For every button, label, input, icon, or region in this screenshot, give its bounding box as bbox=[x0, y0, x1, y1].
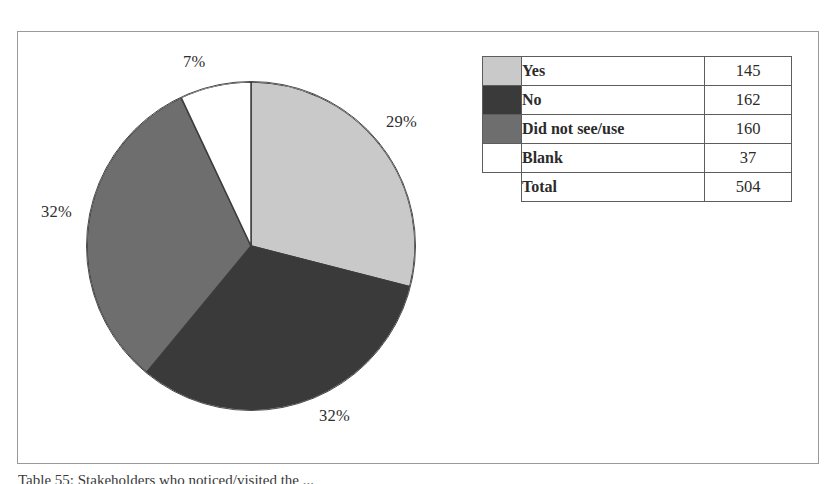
pie-circle bbox=[86, 81, 416, 411]
legend-label-cell: Yes bbox=[522, 57, 705, 86]
legend-label-cell: No bbox=[522, 86, 705, 115]
legend-data-table-wrapper: Yes145No162Did not see/use160Blank37Tota… bbox=[482, 56, 792, 202]
figure-caption: Table 55: Stakeholders who noticed/visit… bbox=[18, 472, 818, 484]
legend-swatch-cell bbox=[483, 86, 522, 115]
legend-swatch-cell bbox=[483, 115, 522, 144]
pie-label-blank: 7% bbox=[183, 52, 206, 72]
table-row: Total504 bbox=[483, 173, 792, 202]
pie-label-did-not-see-use: 32% bbox=[41, 202, 72, 222]
legend-label-cell: Blank bbox=[522, 144, 705, 173]
legend-data-table: Yes145No162Did not see/use160Blank37Tota… bbox=[482, 56, 792, 202]
legend-value-cell: 145 bbox=[705, 57, 792, 86]
legend-value-cell: 160 bbox=[705, 115, 792, 144]
legend-label-cell: Did not see/use bbox=[522, 115, 705, 144]
legend-swatch-did-not-see-use bbox=[483, 115, 521, 143]
legend-swatch-cell bbox=[483, 173, 522, 202]
pie-label-no: 32% bbox=[319, 406, 350, 426]
legend-swatch-yes bbox=[483, 57, 521, 85]
legend-swatch-blank bbox=[483, 144, 521, 172]
table-row: Blank37 bbox=[483, 144, 792, 173]
legend-label-cell: Total bbox=[522, 173, 705, 202]
pie-slices-svg bbox=[87, 82, 415, 410]
table-row: No162 bbox=[483, 86, 792, 115]
figure-frame: 7% 29% 32% 32% Yes145No162Did not see/us… bbox=[17, 31, 819, 464]
legend-swatch-cell bbox=[483, 57, 522, 86]
table-row: Yes145 bbox=[483, 57, 792, 86]
table-row: Did not see/use160 bbox=[483, 115, 792, 144]
legend-swatch-cell bbox=[483, 144, 522, 173]
pie-label-yes: 29% bbox=[386, 112, 417, 132]
legend-value-cell: 504 bbox=[705, 173, 792, 202]
legend-swatch-no bbox=[483, 86, 521, 114]
legend-value-cell: 162 bbox=[705, 86, 792, 115]
legend-value-cell: 37 bbox=[705, 144, 792, 173]
pie-chart: 7% 29% 32% 32% bbox=[18, 32, 478, 465]
